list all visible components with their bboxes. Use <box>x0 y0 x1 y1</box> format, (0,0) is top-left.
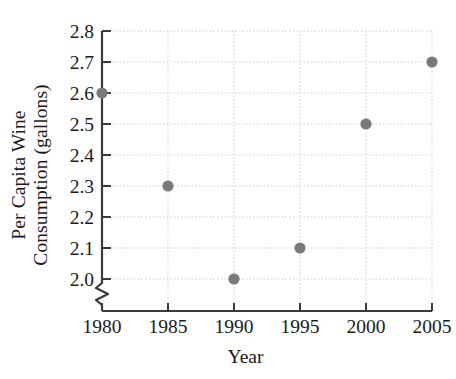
horizontal-gridlines <box>102 31 432 279</box>
xtick-label-2005: 2005 <box>397 317 456 337</box>
data-point <box>228 273 239 284</box>
data-point <box>162 180 173 191</box>
x-axis-title-text: Year <box>186 346 264 367</box>
data-points <box>96 56 437 284</box>
y-axis-title: Per Capita Wine Consumption (gallons) <box>5 45 55 305</box>
xtick-label-1980: 1980 <box>67 317 137 337</box>
x-axis-ticks <box>102 303 432 311</box>
y-axis-title-line-2: Consumption (gallons) <box>30 84 52 265</box>
xtick-label-2000: 2000 <box>331 317 401 337</box>
vertical-gridlines <box>168 31 432 311</box>
axis-break-icon <box>96 283 108 305</box>
data-point <box>96 87 107 98</box>
data-point <box>360 118 371 129</box>
x-axis-title: Year <box>0 346 449 368</box>
y-axis-ticks <box>102 31 111 279</box>
ytick-label-2.8: 2.8 <box>38 22 94 42</box>
xtick-label-1990: 1990 <box>199 317 269 337</box>
data-point <box>294 242 305 253</box>
data-point <box>426 56 437 67</box>
y-axis-title-line-1: Per Capita Wine <box>8 110 30 239</box>
xtick-label-1985: 1985 <box>133 317 203 337</box>
xtick-label-1995: 1995 <box>265 317 335 337</box>
